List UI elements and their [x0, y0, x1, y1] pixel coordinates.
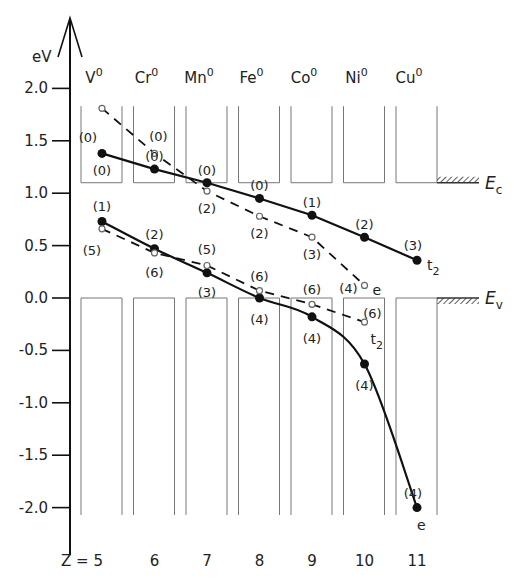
series-line-upper-e — [102, 108, 365, 285]
y-tick-label: -1.5 — [19, 446, 48, 464]
valence-band-box — [186, 298, 227, 515]
x-tick-label: 7 — [202, 552, 212, 570]
charge-state-label: (4) — [303, 331, 321, 346]
data-point-open — [257, 288, 263, 294]
series-end-label: t2 — [427, 257, 440, 278]
ev-hatch — [437, 298, 479, 304]
charge-state-label: (5) — [83, 243, 101, 258]
x-tick-label: 6 — [150, 552, 160, 570]
valence-band-box — [81, 298, 122, 515]
data-point-open — [309, 301, 315, 307]
series-end-label: e — [417, 517, 426, 533]
element-superscript: 0 — [207, 66, 214, 79]
y-tick-label: 0.5 — [24, 237, 48, 255]
data-point-filled — [308, 211, 317, 220]
series-end-label: e — [373, 282, 382, 298]
data-point-open — [152, 250, 158, 256]
element-superscript: 0 — [96, 66, 103, 79]
ec-hatch — [437, 177, 479, 183]
series-line-upper-t2 — [102, 153, 417, 260]
y-tick-label: 1.5 — [24, 132, 48, 150]
charge-state-label: (2) — [355, 217, 373, 232]
valence-band-box — [134, 298, 175, 515]
data-point-filled — [413, 503, 422, 512]
element-label: Co0 — [291, 66, 318, 87]
charge-state-label: (3) — [303, 247, 321, 262]
element-label: Cr0 — [135, 66, 159, 87]
x-tick-label: Z = 5 — [61, 552, 103, 570]
data-point-filled — [150, 165, 159, 174]
valence-band-box — [396, 298, 437, 515]
charge-state-label: (1) — [303, 195, 321, 210]
x-tick-label: 11 — [407, 552, 426, 570]
valence-band-box — [239, 298, 280, 515]
charge-state-label: (6) — [250, 269, 268, 284]
charge-state-label: (4) — [339, 281, 357, 296]
data-point-open — [204, 263, 210, 269]
charge-state-label: (0) — [250, 178, 268, 193]
y-tick-label: -2.0 — [19, 499, 48, 517]
charge-state-label: (2) — [198, 201, 216, 216]
conduction-band-box — [396, 106, 437, 183]
ec-label: Ec — [485, 173, 502, 197]
element-superscript: 0 — [310, 66, 317, 79]
data-point-filled — [203, 268, 212, 277]
charge-state-label: (6) — [363, 306, 381, 321]
y-tick-label: -0.5 — [19, 341, 48, 359]
x-tick-label: 10 — [355, 552, 374, 570]
element-label: Mn0 — [184, 66, 213, 87]
charge-state-label: (2) — [145, 227, 163, 242]
element-label: Fe0 — [239, 66, 263, 87]
charge-state-label: (2) — [250, 226, 268, 241]
charge-state-label: (0) — [149, 129, 167, 144]
charge-state-label: (6) — [303, 282, 321, 297]
data-point-open — [257, 213, 263, 219]
charge-state-label: (4) — [355, 378, 373, 393]
element-label: V0 — [85, 66, 102, 87]
data-point-open — [362, 282, 368, 288]
element-superscript: 0 — [415, 66, 422, 79]
series-end-subscript: 2 — [376, 339, 383, 352]
y-axis-label: eV — [32, 48, 52, 66]
element-superscript: 0 — [151, 66, 158, 79]
y-tick-label: -1.0 — [19, 394, 48, 412]
charge-state-label: (3) — [198, 285, 216, 300]
ev-subscript: v — [496, 298, 503, 312]
charge-state-label: (4) — [250, 312, 268, 327]
x-tick-label: 9 — [307, 552, 317, 570]
element-label: Ni0 — [345, 66, 367, 87]
element-superscript: 0 — [361, 66, 368, 79]
data-point-filled — [308, 312, 317, 321]
conduction-band-box — [239, 106, 280, 183]
data-point-filled — [203, 178, 212, 187]
charge-state-label: (1) — [93, 199, 111, 214]
y-tick-label: 0.0 — [24, 289, 48, 307]
series-end-label: t2 — [371, 331, 384, 352]
data-point-open — [309, 234, 315, 240]
data-point-filled — [360, 360, 369, 369]
charge-state-label: (0) — [93, 163, 111, 178]
charge-state-label: (0) — [145, 149, 163, 164]
valence-band-box — [344, 298, 385, 515]
data-point-open — [204, 188, 210, 194]
series-end-subscript: 2 — [433, 265, 440, 278]
element-label: Cu0 — [396, 66, 423, 87]
element-superscript: 0 — [257, 66, 264, 79]
charge-state-label: (0) — [79, 130, 97, 145]
charge-state-label: (3) — [404, 238, 422, 253]
data-point-filled — [255, 294, 264, 303]
data-point-filled — [360, 233, 369, 242]
charge-state-label: (5) — [198, 242, 216, 257]
charge-state-label: (4) — [404, 486, 422, 501]
data-point-filled — [98, 217, 107, 226]
data-point-filled — [413, 256, 422, 265]
charge-state-label: (6) — [145, 265, 163, 280]
y-tick-label: 1.0 — [24, 184, 48, 202]
ec-subscript: c — [496, 183, 503, 197]
charge-state-label: (0) — [198, 163, 216, 178]
x-tick-label: 8 — [255, 552, 265, 570]
ev-label: Ev — [485, 288, 503, 312]
data-point-filled — [255, 194, 264, 203]
conduction-band-box — [291, 106, 332, 183]
data-point-filled — [98, 149, 107, 158]
